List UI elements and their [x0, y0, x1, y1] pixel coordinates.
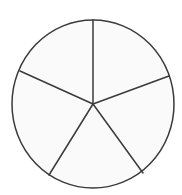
figure-canvas — [0, 0, 182, 195]
circle-sector-diagram: Circle divided into five sectors — [0, 0, 182, 195]
